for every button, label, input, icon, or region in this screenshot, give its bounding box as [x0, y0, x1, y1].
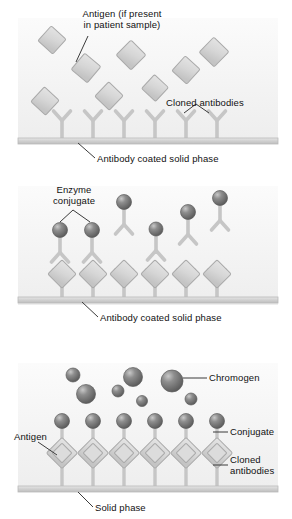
antigen-diamond [38, 26, 66, 54]
conjugate-sphere [55, 414, 70, 429]
chromogen-sphere [137, 396, 148, 407]
panel-1-antigen-label: Antigen (if present in patient sample) [62, 8, 182, 30]
chromogen-sphere [161, 370, 183, 392]
antigen-diamond [141, 260, 169, 288]
panel-3-conjugate-label: Conjugate [230, 426, 274, 437]
caption-leader-line [82, 302, 98, 317]
enzyme-sphere [53, 223, 68, 238]
enzyme-sphere [149, 222, 163, 236]
chromogen-sphere [185, 393, 197, 405]
caption-leader-line [78, 143, 95, 158]
antigen-diamond [116, 40, 146, 70]
chromogen-sphere [112, 385, 124, 397]
chromogen-sphere [66, 368, 80, 382]
chromogen-sphere [77, 385, 96, 404]
panel-3-antigen-label: Antigen [14, 431, 47, 442]
chromogen-sphere [124, 368, 143, 387]
antigen-diamond [172, 260, 200, 288]
enzyme-sphere [117, 195, 132, 210]
antigen-diamond [48, 260, 76, 288]
panel-1-cloned-antibodies-label: Cloned antibodies [166, 97, 244, 108]
conjugate-sphere [148, 414, 163, 429]
conjugate-sphere [179, 414, 194, 429]
panel-2-caption: Antibody coated solid phase [100, 312, 222, 323]
conjugate-sphere [86, 414, 101, 429]
antigen-diamond [203, 260, 231, 288]
enzyme-sphere [85, 223, 100, 238]
antigen-diamond [142, 75, 169, 102]
bound-stack-group [46, 414, 232, 488]
antigen-diamond [71, 53, 101, 83]
conjugate-sphere [210, 414, 225, 429]
panel-3-caption: Solid phase [95, 502, 146, 513]
antigen-diamond [199, 37, 229, 67]
panel-2-enzyme-conjugate-label: Enzyme conjugate [38, 184, 110, 206]
antigen-diamond [110, 260, 138, 288]
free-chromogen-group [66, 368, 197, 407]
panel-1-caption: Antibody coated solid phase [97, 153, 219, 164]
panel-3-chromogen-label: Chromogen [209, 372, 260, 383]
conjugate-sphere [117, 414, 132, 429]
caption-leader-line [78, 492, 93, 507]
antigen-diamond [95, 82, 123, 110]
solid-phase-bar [18, 297, 278, 303]
coated-antibody-group [54, 111, 226, 138]
enzyme-sphere [181, 205, 196, 220]
antigen-diamond [79, 260, 107, 288]
elisa-diagram: Antigen (if present in patient sample) C… [0, 0, 292, 519]
panel-3-cloned-antibodies-label: Cloned antibodies [230, 454, 274, 476]
solid-phase-bar [18, 486, 278, 492]
panel-1-antigen-capture: Antigen (if present in patient sample) C… [0, 0, 292, 175]
enzyme-sphere [213, 191, 228, 206]
panel-2-enzyme-conjugate: Enzyme conjugate Antibody coated solid p… [0, 175, 292, 345]
solid-phase-bar [18, 138, 278, 144]
panel-3-chromogen-detection: Chromogen Antigen Conjugate Cloned antib… [0, 345, 292, 519]
bound-antigen-group [48, 260, 231, 297]
antigen-diamond [172, 56, 200, 84]
enzyme-conjugate-leader-line [60, 210, 90, 222]
